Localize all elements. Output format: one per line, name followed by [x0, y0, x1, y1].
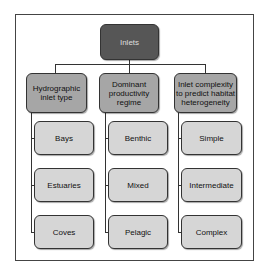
leaf-node: Mixed	[108, 168, 168, 202]
leaf-node: Intermediate	[181, 168, 242, 202]
category-label: Hydrographic inlet type	[27, 84, 86, 102]
category-label: Dominant productivity regime	[100, 80, 158, 107]
col1-spine	[31, 112, 32, 233]
leaf-label: Coves	[53, 228, 76, 237]
leaf-node: Bays	[34, 121, 94, 155]
leaf-node: Estuaries	[34, 168, 94, 202]
leaf-node: Complex	[181, 215, 242, 249]
leaf-node: Simple	[181, 121, 242, 155]
root-node: Inlets	[100, 24, 159, 60]
leaf-label: Estuaries	[47, 181, 80, 190]
leaf-label: Simple	[199, 134, 223, 143]
leaf-label: Intermediate	[189, 181, 233, 190]
leaf-node: Benthic	[108, 121, 168, 155]
leaf-node: Coves	[34, 215, 94, 249]
category-node-hydrographic: Hydrographic inlet type	[26, 73, 87, 113]
category-node-productivity: Dominant productivity regime	[99, 73, 159, 113]
leaf-label: Mixed	[127, 181, 148, 190]
top-bus	[55, 64, 206, 65]
category-label: Inlet complexity to predict habitat hete…	[175, 80, 236, 107]
col1-drop	[55, 64, 56, 73]
leaf-label: Bays	[55, 134, 73, 143]
leaf-label: Pelagic	[125, 228, 151, 237]
leaf-label: Benthic	[125, 134, 152, 143]
col3-spine	[178, 112, 179, 233]
col2-drop	[129, 64, 130, 73]
category-node-complexity: Inlet complexity to predict habitat hete…	[174, 73, 237, 113]
col3-drop	[205, 64, 206, 73]
col2-spine	[105, 112, 106, 233]
root-label: Inlets	[120, 38, 139, 47]
leaf-node: Pelagic	[108, 215, 168, 249]
leaf-label: Complex	[196, 228, 228, 237]
